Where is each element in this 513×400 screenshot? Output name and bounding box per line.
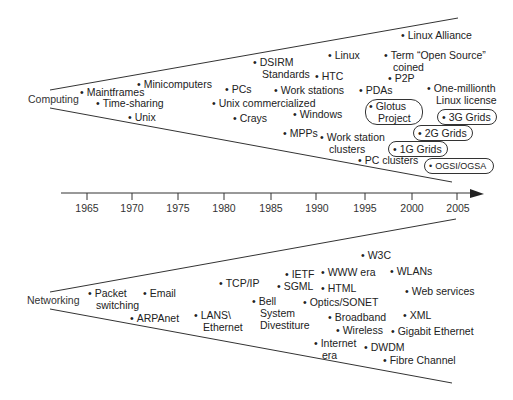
year-label: 1990 <box>305 202 328 214</box>
event-broadband: Broadband <box>328 311 386 323</box>
event-optics-sonet: Optics/SONET <box>303 296 379 308</box>
event-packet-switching: Packet <box>88 287 127 299</box>
year-label: 1985 <box>259 202 282 214</box>
event-html: HTML <box>321 282 356 294</box>
event-open-source: Term “Open Source” <box>384 49 486 61</box>
event-internet-era: Internet <box>314 337 356 349</box>
year-label: 1980 <box>212 202 235 214</box>
event-glotus-project-line2: Project <box>378 112 411 124</box>
event-minicomputers: Minicomputers <box>137 78 212 90</box>
event-ogsi-ogsa: OGSI/OGSA <box>429 160 486 172</box>
event-ietf: IETF <box>285 268 314 280</box>
event-1g-grids: 1G Grids <box>393 143 442 155</box>
event-xml: XML <box>403 309 431 321</box>
year-label: 1970 <box>120 202 143 214</box>
event-web-services: Web services <box>405 285 475 297</box>
axis-ticks <box>87 193 457 200</box>
event-linux: Linux <box>328 49 360 61</box>
event-dsirm: DSIRM <box>253 56 294 68</box>
event-one-millionth: One-millionth <box>427 82 496 94</box>
event-open-source-line2: coined <box>393 61 424 73</box>
event-dsirm-line2: Standards <box>262 68 310 80</box>
event-www-era: WWW era <box>321 266 376 278</box>
event-work-stations: Work stations <box>274 84 344 96</box>
event-pcs: PCs <box>225 83 252 95</box>
event-wlans: WLANs <box>390 265 432 277</box>
year-label: 1965 <box>75 202 98 214</box>
event-bell-line2: System <box>260 307 295 319</box>
category-networking: Networking <box>27 294 80 306</box>
year-label: 2000 <box>400 202 423 214</box>
event-crays: Crays <box>233 112 267 124</box>
year-label: 1995 <box>353 202 376 214</box>
event-mpps: MPPs <box>283 127 318 139</box>
event-fibre-channel: Fibre Channel <box>383 354 456 366</box>
event-p2p: P2P <box>388 72 415 84</box>
event-packet-switching-line2: switching <box>96 299 139 311</box>
event-w3c: W3C <box>361 249 391 261</box>
event-work-station-clusters: Work station <box>320 131 385 143</box>
event-time-sharing: Time-sharing <box>96 97 164 109</box>
event-arpanet: ARPAnet <box>130 312 179 324</box>
year-label: 2005 <box>446 202 469 214</box>
year-label: 1975 <box>166 202 189 214</box>
event-linux-alliance: Linux Alliance <box>401 29 472 41</box>
event-one-millionth-line2: Linux license <box>436 94 497 106</box>
event-lans-ethernet-line2: Ethernet <box>203 321 243 333</box>
event-tcp-ip: TCP/IP <box>219 277 260 289</box>
event-htc: HTC <box>315 70 343 82</box>
category-computing: Computing <box>28 93 79 105</box>
event-pdas: PDAs <box>359 84 393 96</box>
event-3g-grids: 3G Grids <box>442 111 491 123</box>
event-unix: Unix <box>128 111 156 123</box>
event-lans-ethernet: LANS\ <box>194 309 231 321</box>
event-gigabit-ethernet: Gigabit Ethernet <box>391 325 474 337</box>
axis-arrowhead-icon <box>470 189 484 198</box>
timeline-diagram: Computing Networking 1965 1970 1975 1980… <box>0 0 513 400</box>
event-bell-line3: Divestiture <box>260 319 310 331</box>
event-sgml: SGML <box>277 280 313 292</box>
event-email: Email <box>143 287 176 299</box>
event-dwdm: DWDM <box>364 341 405 353</box>
event-glotus-project: Glotus <box>369 100 406 112</box>
event-2g-grids: 2G Grids <box>418 127 467 139</box>
event-internet-era-line2: era <box>322 349 337 361</box>
event-wireless: Wireless <box>336 324 383 336</box>
event-bell-system-divestiture: Bell <box>252 295 276 307</box>
event-windows: Windows <box>293 108 342 120</box>
